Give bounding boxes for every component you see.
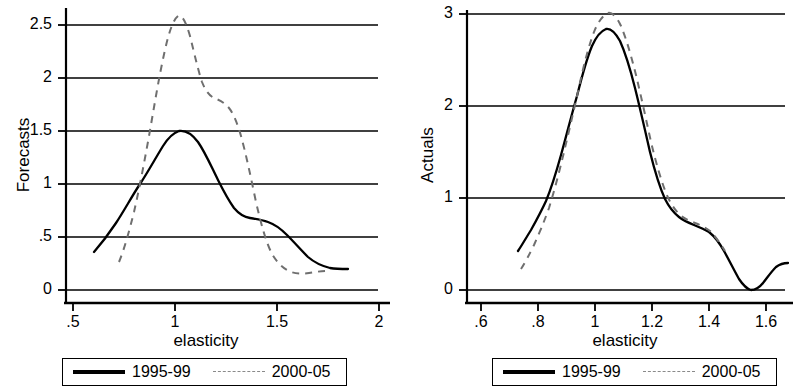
forecasts-series-2000-05 (119, 16, 327, 274)
forecasts-legend-label-1995-99: 1995-99 (125, 363, 191, 381)
actuals-y-tick-3: 3 (408, 4, 453, 22)
actuals-legend-label-1995-99: 1995-99 (555, 363, 621, 381)
actuals-x-tick-0.6: .6 (461, 313, 501, 331)
forecasts-plot-area (0, 0, 400, 345)
forecasts-y-ticks (58, 25, 66, 290)
legend-dashed-line-swatch-icon (213, 366, 265, 378)
forecasts-y-tick-2: 2 (4, 68, 52, 86)
legend-solid-line-swatch-icon (503, 366, 555, 378)
actuals-y-ticks (459, 14, 467, 290)
actuals-y-tick-2: 2 (408, 96, 453, 114)
legend-solid-line-swatch-icon (73, 366, 125, 378)
actuals-x-tick-1.6: 1.6 (746, 313, 786, 331)
actuals-y-tick-1: 1 (408, 188, 453, 206)
forecasts-x-tick-1.5: 1.5 (257, 313, 297, 331)
actuals-y-tick-0: 0 (408, 280, 453, 298)
forecasts-x-tick-2: 2 (359, 313, 399, 331)
figure-two-panel-density-plots: Forecasts 2.5 2 1.5 1 .5 0 .5 1 1.5 2 el… (0, 0, 800, 388)
forecasts-legend: 1995-99 2000-05 (62, 358, 347, 386)
forecasts-y-tick-2.5: 2.5 (4, 15, 52, 33)
forecasts-series-1995-99 (94, 131, 348, 269)
actuals-x-tick-1.2: 1.2 (632, 313, 672, 331)
actuals-legend-entry-2000-05: 2000-05 (643, 363, 761, 381)
actuals-series-1995-99 (518, 29, 788, 290)
actuals-x-tick-1: 1 (575, 313, 615, 331)
forecasts-legend-entry-1995-99: 1995-99 (73, 363, 191, 381)
forecasts-y-tick-1: 1 (4, 174, 52, 192)
forecasts-y-axis-title: Forecasts (14, 100, 34, 210)
forecasts-x-axis-title: elasticity (126, 331, 286, 351)
forecasts-x-tick-0.5: .5 (53, 313, 93, 331)
forecasts-x-tick-1: 1 (155, 313, 195, 331)
forecasts-legend-entry-2000-05: 2000-05 (213, 363, 331, 381)
forecasts-y-tick-1.5: 1.5 (4, 121, 52, 139)
forecasts-legend-label-2000-05: 2000-05 (265, 363, 331, 381)
actuals-legend-label-2000-05: 2000-05 (695, 363, 761, 381)
forecasts-y-tick-0: 0 (4, 280, 52, 298)
legend-dashed-line-swatch-icon (643, 366, 695, 378)
panel-actuals: Actuals 3 2 1 0 .6 .8 1 1.2 1.4 1.6 elas… (400, 0, 800, 388)
actuals-legend-entry-1995-99: 1995-99 (503, 363, 621, 381)
actuals-legend: 1995-99 2000-05 (492, 358, 777, 386)
actuals-x-tick-0.8: .8 (518, 313, 558, 331)
actuals-plot-area (400, 0, 800, 345)
forecasts-gridlines (66, 25, 378, 290)
actuals-x-axis-title: elasticity (545, 331, 705, 351)
actuals-x-tick-1.4: 1.4 (689, 313, 729, 331)
forecasts-y-tick-0.5: .5 (4, 227, 52, 245)
panel-forecasts: Forecasts 2.5 2 1.5 1 .5 0 .5 1 1.5 2 el… (0, 0, 400, 388)
